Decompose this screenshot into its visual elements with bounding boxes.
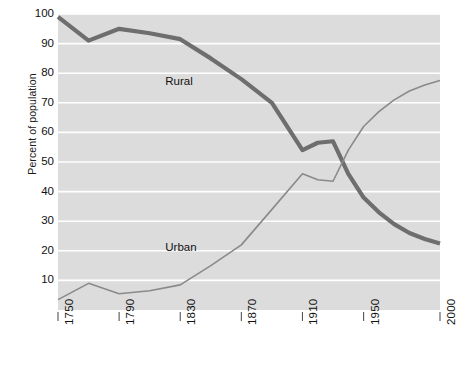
x-axis-tick-label: 1910 — [307, 299, 319, 325]
x-axis-tick-label: 1870 — [246, 299, 258, 325]
series-label-urban: Urban — [165, 241, 196, 253]
series-label-rural: Rural — [165, 75, 192, 87]
x-axis-tick-label: 1950 — [369, 299, 381, 325]
x-axis-tick-label: 1750 — [63, 299, 75, 325]
x-axis-tick-label: 1830 — [185, 299, 197, 325]
line-chart: Percent of population 102030405060708090… — [0, 0, 464, 367]
x-axis-tick-labels: 1750179018301870191019502000 — [0, 0, 464, 367]
x-axis-tick-label: 2000 — [445, 299, 457, 325]
x-axis-tick-label: 1790 — [124, 299, 136, 325]
